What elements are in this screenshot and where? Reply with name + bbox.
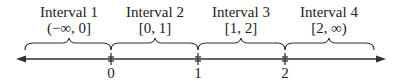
brace-interval-4 — [285, 38, 374, 50]
tick-label-0: 0 — [101, 65, 121, 82]
tick-label-2: 2 — [275, 65, 295, 82]
right-arrow-icon — [376, 56, 386, 63]
brace-interval-3 — [198, 38, 285, 50]
interval-4-range: [2, ∞) — [274, 20, 384, 36]
left-arrow-icon — [16, 56, 26, 63]
interval-4-title: Interval 4 — [274, 4, 384, 20]
brace-interval-1 — [25, 38, 111, 50]
brace-interval-2 — [111, 38, 198, 50]
tick-label-1: 1 — [188, 65, 208, 82]
